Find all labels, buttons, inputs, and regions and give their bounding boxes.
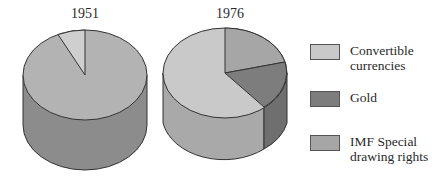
- legend-swatch: [310, 135, 340, 151]
- legend-item-imf-sdr: IMF Special drawing rights: [310, 134, 428, 164]
- legend-swatch: [310, 44, 340, 60]
- legend-label: Gold: [350, 90, 377, 105]
- pie-1976: [163, 28, 287, 160]
- legend-item-gold: Gold: [310, 90, 377, 107]
- legend-swatch: [310, 91, 340, 107]
- legend-item-convertible-currencies: Convertible currencies: [310, 43, 414, 73]
- pie-1951: [23, 30, 147, 170]
- legend-label: Convertible currencies: [350, 43, 414, 73]
- legend-label: IMF Special drawing rights: [350, 134, 428, 164]
